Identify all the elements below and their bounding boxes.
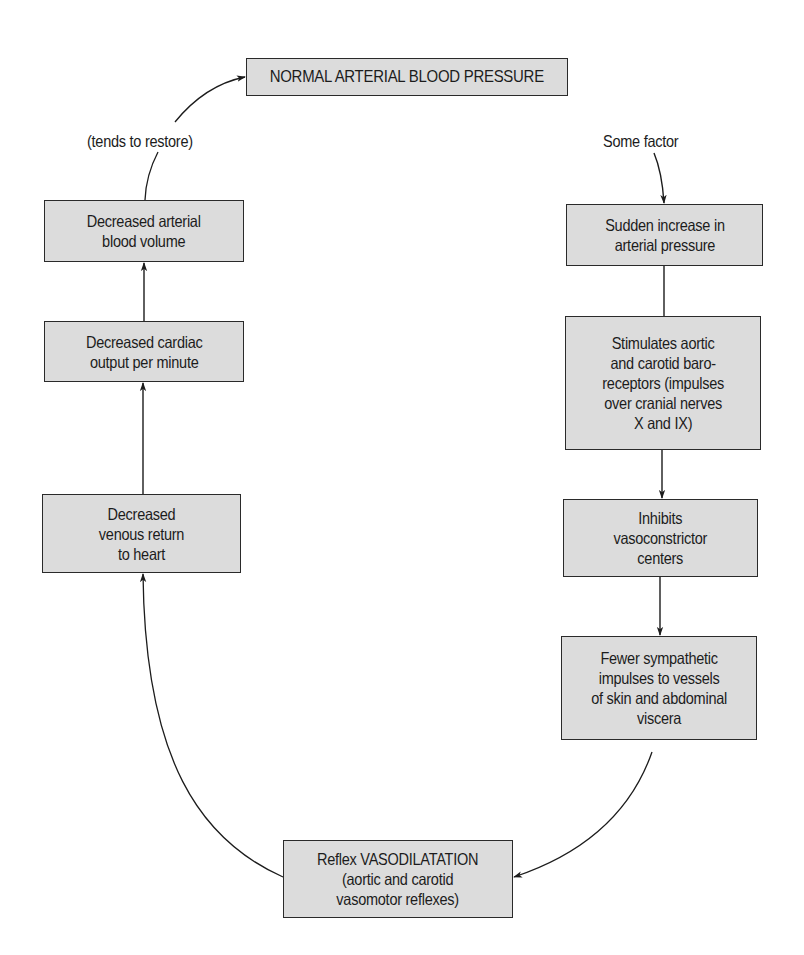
- arrow-factor-to-sudden: [654, 153, 664, 203]
- node-stimulates-baroreceptors: Stimulates aortic and carotid baro- rece…: [565, 316, 761, 450]
- node-fewer-sympathetic-impulses: Fewer sympathetic impulses to vessels of…: [561, 636, 757, 740]
- node-text: NORMAL ARTERIAL BLOOD PRESSURE: [270, 67, 544, 87]
- label-some-factor: Some factor: [603, 131, 689, 151]
- node-text: Decreased cardiac output per minute: [86, 332, 203, 372]
- node-text: Sudden increase in arterial pressure: [605, 215, 725, 255]
- label-text: (tends to restore): [87, 131, 193, 151]
- node-sudden-increase: Sudden increase in arterial pressure: [566, 204, 763, 266]
- node-text: Inhibits vasoconstrictor centers: [614, 508, 708, 568]
- label-text: Some factor: [603, 131, 678, 151]
- node-text: Decreased arterial blood volume: [87, 211, 201, 251]
- node-text: Stimulates aortic and carotid baro- rece…: [602, 333, 724, 433]
- node-normal-arterial-pressure: NORMAL ARTERIAL BLOOD PRESSURE: [246, 58, 568, 96]
- node-inhibits-vasoconstrictor: Inhibits vasoconstrictor centers: [563, 499, 758, 577]
- node-text: Reflex VASODILATATION (aortic and caroti…: [317, 849, 478, 909]
- edge-label-tends-to-restore: (tends to restore): [87, 131, 207, 151]
- arrow-fewer-to-reflex: [514, 752, 652, 877]
- line-volume-to-restore: [145, 152, 158, 200]
- arrow-reflex-to-venous: [143, 574, 283, 877]
- node-decreased-blood-volume: Decreased arterial blood volume: [44, 200, 244, 262]
- node-decreased-venous-return: Decreased venous return to heart: [42, 494, 241, 573]
- arrow-restore-to-normal: [175, 77, 245, 122]
- node-text: Decreased venous return to heart: [99, 504, 184, 564]
- node-reflex-vasodilatation: Reflex VASODILATATION (aortic and caroti…: [283, 840, 513, 918]
- diagram-canvas: NORMAL ARTERIAL BLOOD PRESSURE (tends to…: [0, 0, 804, 955]
- node-text: Fewer sympathetic impulses to vessels of…: [591, 648, 727, 728]
- node-decreased-cardiac-output: Decreased cardiac output per minute: [44, 321, 244, 382]
